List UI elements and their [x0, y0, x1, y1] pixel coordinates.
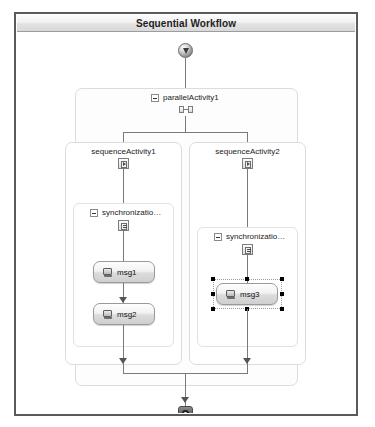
parallel-split-icon [179, 104, 193, 115]
synchronization-scope-2-header[interactable]: synchronizatio… [214, 232, 285, 241]
designer-frame: Sequential Workflow parallelActivity1 s [14, 12, 358, 416]
selection-handle-ne[interactable] [280, 277, 284, 281]
connector-seq2-to-scope [247, 169, 248, 227]
workflow-canvas[interactable]: parallelActivity1 sequenceActivity1 sync… [17, 33, 355, 413]
message-activity-icon [103, 310, 113, 319]
synchronization-scope-icon [118, 220, 129, 231]
connector-msg2-to-join [123, 325, 124, 373]
selection-handle-nw[interactable] [211, 277, 215, 281]
arrow-to-end-node [181, 397, 189, 403]
synchronization-scope-icon [242, 244, 253, 255]
selection-handle-n[interactable] [245, 277, 249, 281]
parallel-activity-header[interactable]: parallelActivity1 [151, 93, 219, 102]
collapse-box-icon[interactable] [214, 233, 222, 241]
message-activity-msg2[interactable]: msg2 [93, 303, 155, 325]
message-activity-label: msg2 [117, 310, 137, 319]
connector-start-to-parallel [185, 58, 186, 88]
selection-handle-se[interactable] [280, 307, 284, 311]
collapse-box-icon[interactable] [151, 94, 159, 102]
connector-scope1-to-msg1 [123, 231, 124, 261]
selection-handle-w[interactable] [211, 292, 215, 296]
synchronization-scope-2-label: synchronizatio… [226, 232, 285, 241]
sequence-activity-icon [118, 158, 129, 169]
synchronization-scope-1-header[interactable]: synchronizatio… [90, 208, 161, 217]
selection-handle-sw[interactable] [211, 307, 215, 311]
start-node-icon[interactable] [178, 43, 193, 58]
selection-handle-e[interactable] [280, 292, 284, 296]
collapse-box-icon[interactable] [90, 209, 98, 217]
connector-split-right [247, 132, 248, 142]
message-activity-msg3[interactable]: msg3 [216, 283, 278, 305]
workflow-designer-screen: Sequential Workflow parallelActivity1 s [0, 0, 375, 427]
sequence-activity-2-title: sequenceActivity2 [189, 147, 306, 156]
connector-split-left [123, 132, 124, 142]
message-activity-icon [103, 268, 113, 277]
sequence-activity-1-title: sequenceActivity1 [65, 147, 182, 156]
connector-seq1-to-scope [123, 169, 124, 203]
message-activity-msg1[interactable]: msg1 [93, 261, 155, 283]
parallel-activity-label: parallelActivity1 [163, 93, 219, 102]
end-node-icon[interactable] [178, 406, 193, 413]
message-activity-icon [226, 290, 236, 299]
connector-parallel-to-split [185, 116, 186, 132]
connector-split-bar [123, 132, 248, 133]
message-activity-label: msg3 [240, 290, 260, 299]
synchronization-scope-1-label: synchronizatio… [102, 208, 161, 217]
arrow-branch2-join [243, 358, 251, 364]
message-activity-label: msg1 [117, 268, 137, 277]
window-title-bar: Sequential Workflow [17, 15, 355, 32]
page-title: Sequential Workflow [136, 18, 236, 29]
arrow-branch1-join [119, 358, 127, 364]
sequence-activity-icon [242, 158, 253, 169]
